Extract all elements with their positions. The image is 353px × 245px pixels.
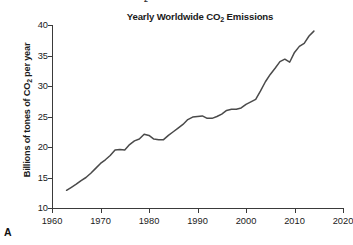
y-tick-label: 40 xyxy=(38,20,48,30)
y-tick-label: 15 xyxy=(38,173,48,183)
caption-fragment-text: Emissions in metric tons of CO2 xyxy=(6,0,148,2)
panel-letter-text: A xyxy=(4,226,12,238)
x-tick-label: 1990 xyxy=(187,216,208,226)
panel-letter: A xyxy=(4,226,12,238)
x-tick-mark xyxy=(246,208,247,213)
x-tick-label: 1960 xyxy=(42,216,63,226)
x-tick-mark xyxy=(343,208,344,213)
y-tick-label: 30 xyxy=(38,81,48,91)
caption-fragment: Emissions in metric tons of CO2 xyxy=(6,0,256,4)
y-tick-label: 25 xyxy=(38,112,48,122)
chart-title: Yearly Worldwide CO2 Emissions xyxy=(60,11,340,22)
x-tick-mark xyxy=(198,208,199,213)
y-axis-title: Billions of tones of CO2 per year xyxy=(22,20,32,200)
y-axis-title-text: Billions of tones of CO2 per year xyxy=(22,43,32,178)
x-tick-label: 1970 xyxy=(90,216,111,226)
plot-area: 10152025303540 1960197019801990200020102… xyxy=(52,25,343,208)
chart-title-text: Yearly Worldwide CO2 Emissions xyxy=(127,11,274,22)
x-tick-mark xyxy=(52,208,53,213)
y-tick-label: 35 xyxy=(38,51,48,61)
x-tick-mark xyxy=(149,208,150,213)
x-tick-label: 1980 xyxy=(139,216,160,226)
x-tick-label: 2000 xyxy=(236,216,257,226)
co2-emissions-line xyxy=(67,31,314,190)
y-tick-label: 20 xyxy=(38,142,48,152)
x-tick-mark xyxy=(295,208,296,213)
data-line-chart xyxy=(52,25,343,208)
y-tick-label: 10 xyxy=(38,203,48,213)
x-tick-mark xyxy=(101,208,102,213)
x-tick-label: 2020 xyxy=(333,216,353,226)
x-tick-label: 2010 xyxy=(284,216,305,226)
